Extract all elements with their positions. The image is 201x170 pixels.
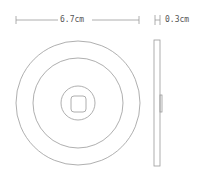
inner-circle — [33, 58, 123, 148]
button-circle — [61, 86, 95, 120]
side-profile-bump — [160, 95, 162, 112]
side-profile — [154, 40, 160, 166]
width-label: 6.7cm — [60, 15, 84, 25]
diagram-canvas — [0, 0, 201, 170]
thickness-label: 0.3cm — [165, 15, 189, 25]
outer-circle — [16, 41, 140, 165]
button-square — [71, 96, 86, 112]
